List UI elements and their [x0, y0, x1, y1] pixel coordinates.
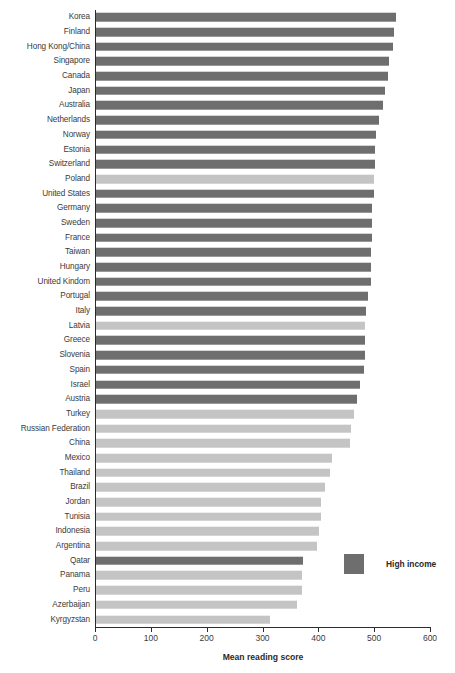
bar-row: United States [95, 186, 430, 201]
bar-row: Poland [95, 172, 430, 187]
category-label: Poland [65, 175, 90, 183]
bar [95, 439, 350, 448]
bar [95, 366, 364, 375]
x-axis-title: Mean reading score [95, 653, 431, 662]
category-label: China [69, 439, 90, 447]
bar-row: Mexico [95, 451, 430, 466]
category-label: Azerbaijan [52, 601, 90, 609]
bar [95, 292, 368, 301]
category-label: Austria [65, 395, 90, 403]
x-tick-label: 500 [367, 634, 381, 643]
category-label: Switzerland [49, 160, 90, 168]
category-label: Slovenia [59, 351, 90, 359]
bar [95, 307, 366, 316]
bar-row: China [95, 436, 430, 451]
bar-row: Brazil [95, 480, 430, 495]
bar-row: Portugal [95, 289, 430, 304]
category-label: Jordan [66, 498, 90, 506]
bar [95, 321, 365, 330]
category-label: Canada [62, 72, 90, 80]
bar [95, 160, 375, 169]
category-label: Latvia [69, 322, 90, 330]
bar-row: Japan [95, 83, 430, 98]
bar [95, 601, 297, 610]
bar [95, 145, 375, 154]
bar-row: Greece [95, 333, 430, 348]
bar-row: Turkey [95, 407, 430, 422]
bar [95, 571, 302, 580]
bar [95, 233, 372, 242]
bar-row: Sweden [95, 216, 430, 231]
x-tick [318, 627, 319, 632]
x-tick [430, 627, 431, 632]
bar-row: Taiwan [95, 245, 430, 260]
x-tick [263, 627, 264, 632]
x-tick-label: 400 [311, 634, 325, 643]
bar [95, 527, 319, 536]
bar-row: Israel [95, 377, 430, 392]
category-label: Thailand [59, 469, 90, 477]
bar-row: Slovenia [95, 348, 430, 363]
bar [95, 86, 385, 95]
category-label: Hungary [60, 263, 90, 271]
category-label: Kyrgyzstan [51, 615, 91, 623]
bar [95, 395, 357, 404]
bar-row: Hungary [95, 260, 430, 275]
bar [95, 454, 332, 463]
mean-reading-score-bar-chart: KoreaFinlandHong Kong/ChinaSingaporeCana… [0, 0, 455, 673]
bar-row: Argentina [95, 539, 430, 554]
bar [95, 512, 321, 521]
category-label: Indonesia [55, 527, 90, 535]
bar-row: Latvia [95, 318, 430, 333]
category-label: Finland [64, 28, 90, 36]
category-label: Russian Federation [21, 424, 90, 432]
bar [95, 351, 365, 360]
bar-row: Thailand [95, 465, 430, 480]
bar-row: Korea [95, 10, 430, 25]
bar-row: Jordan [95, 495, 430, 510]
bar-row: Australia [95, 98, 430, 113]
bar-row: Finland [95, 25, 430, 40]
bar-row: Russian Federation [95, 421, 430, 436]
bar [95, 189, 374, 198]
bar-row: Indonesia [95, 524, 430, 539]
category-label: Australia [59, 101, 90, 109]
category-label: Mexico [65, 454, 90, 462]
bar [95, 101, 383, 110]
category-label: France [65, 234, 90, 242]
bar [95, 586, 302, 595]
x-tick [95, 627, 96, 632]
x-tick-label: 100 [144, 634, 158, 643]
category-label: Sweden [61, 219, 90, 227]
bar [95, 219, 372, 228]
x-tick [207, 627, 208, 632]
legend-label-high-income: High income [386, 560, 436, 568]
category-label: Israel [71, 380, 90, 388]
bar [95, 424, 351, 433]
category-label: Netherlands [47, 116, 90, 124]
bar-row: Spain [95, 363, 430, 378]
bar-row: Kyrgyzstan [95, 612, 430, 627]
bar [95, 380, 360, 389]
bar-row: United Kindom [95, 274, 430, 289]
category-label: Panama [60, 571, 90, 579]
bar-row: Azerbaijan [95, 598, 430, 613]
bar-row: Italy [95, 304, 430, 319]
bar-row: Netherlands [95, 113, 430, 128]
category-label: Qatar [70, 557, 90, 565]
category-label: Estonia [63, 145, 90, 153]
bar [95, 542, 317, 551]
bar [95, 57, 389, 66]
bar [95, 42, 393, 51]
category-label: Peru [73, 586, 90, 594]
bar [95, 556, 303, 565]
plot-area: KoreaFinlandHong Kong/ChinaSingaporeCana… [95, 10, 430, 627]
y-axis-line [95, 10, 96, 627]
x-tick [374, 627, 375, 632]
category-label: Italy [75, 307, 90, 315]
bar [95, 131, 376, 140]
bar [95, 410, 354, 419]
bar-row: Canada [95, 69, 430, 84]
bar-row: Peru [95, 583, 430, 598]
x-tick-label: 0 [93, 634, 98, 643]
